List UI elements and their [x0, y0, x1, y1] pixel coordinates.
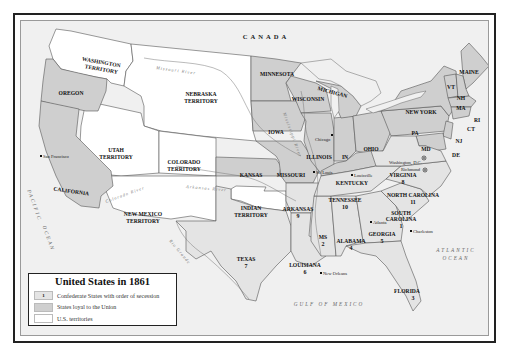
legend-label: U.S. territories	[57, 316, 93, 322]
oregon-label: OREGON	[59, 90, 84, 96]
new-mexico-territory-label-1: NEW MEXICO	[124, 211, 163, 217]
san-francisco-label: San Francisco	[43, 154, 70, 159]
mississippi-order: 2	[322, 241, 325, 247]
canada-label: CANADA	[243, 33, 290, 40]
illinois-label: ILLINOIS	[306, 154, 332, 160]
atlantic-label-2: OCEAN	[442, 255, 469, 261]
south-carolina-order: 1	[400, 223, 403, 229]
legend-title: United States in 1861	[34, 276, 171, 288]
chicago-label: Chicago	[315, 137, 331, 142]
utah-territory-label-2: TERRITORY	[99, 154, 133, 160]
florida-order: 3	[412, 295, 415, 301]
new-york-label: NEW YORK	[405, 109, 437, 115]
indiana-label: IN	[342, 154, 348, 160]
maryland-label: MD	[421, 146, 430, 152]
missouri-label: MISSOURI	[277, 172, 305, 178]
alabama-order: 4	[350, 245, 353, 251]
arkansas-label: ARKANSAS	[283, 206, 314, 212]
iowa-label: IOWA	[268, 129, 284, 135]
utah-territory-label-1: UTAH	[108, 147, 124, 153]
new-jersey-label: NJ	[456, 138, 463, 144]
legend-item-union: States loyal to the Union	[34, 302, 171, 314]
arkansas-order: 9	[297, 213, 300, 219]
indian-territory-label-1: INDIAN	[241, 205, 262, 211]
st-louis-label: St. Louis	[316, 170, 333, 175]
georgia-order: 5	[381, 238, 384, 244]
legend-item-territories: U.S. territories	[34, 313, 171, 325]
south-carolina-label-2: CAROLINA	[386, 216, 416, 222]
legend-label: States loyal to the Union	[57, 304, 116, 310]
kansas-label: KANSAS	[240, 172, 263, 178]
richmond-label: Richmond	[401, 167, 421, 172]
ohio-label: OHIO	[363, 146, 379, 152]
maine-label: MAINE	[459, 69, 479, 75]
nebraska-territory-label-1: NEBRASKA	[185, 91, 216, 97]
mississippi-label: MS	[319, 234, 327, 240]
atlantic-label-1: ATLANTIC	[435, 247, 475, 253]
confederate-swatch: 1	[34, 291, 53, 300]
colorado-territory-label-1: COLORADO	[168, 159, 202, 165]
minnesota-label: MINNESOTA	[260, 71, 294, 77]
gulf-label: GULF OF MEXICO	[294, 301, 365, 307]
new-mexico-territory-label-2: TERRITORY	[126, 218, 160, 224]
louisiana-order: 6	[304, 269, 307, 275]
virginia-order: 8	[402, 179, 405, 185]
virginia-label: VIRGINIA	[389, 172, 416, 178]
city-louisville: Louisville	[351, 173, 373, 178]
vermont-label: VT	[447, 84, 455, 90]
atlanta-label: Atlanta	[373, 220, 387, 225]
city-atlanta: Atlanta	[370, 220, 387, 225]
pennsylvania-label: PA	[411, 130, 418, 136]
georgia-label: GEORGIA	[368, 231, 395, 237]
city-charleston: Charleston	[410, 229, 434, 234]
texas-label: TEXAS	[237, 256, 256, 262]
north-carolina-order: 11	[410, 199, 416, 205]
connecticut-label: CT	[467, 126, 475, 132]
wisconsin-label: WISCONSIN	[292, 96, 325, 102]
new-orleans-label: New Orleans	[323, 271, 347, 276]
delaware-label: DE	[452, 152, 460, 158]
territory-swatch	[34, 314, 53, 323]
louisville-label: Louisville	[354, 173, 373, 178]
legend-label: Confederate States with order of secessi…	[57, 293, 159, 299]
legend-item-confederate: 1 Confederate States with order of seces…	[34, 290, 171, 302]
union-swatch	[34, 303, 53, 312]
charleston-label: Charleston	[413, 229, 434, 234]
city-new-orleans: New Orleans	[320, 271, 347, 276]
texas-order: 7	[245, 263, 248, 269]
map-legend: United States in 1861 1 Confederate Stat…	[28, 273, 177, 326]
colorado-territory-label-2: TERRITORY	[167, 166, 201, 172]
indian-territory-label-2: TERRITORY	[234, 212, 268, 218]
north-carolina-label: NORTH CAROLINA	[387, 192, 439, 198]
new-hampshire-label: NH	[457, 95, 466, 101]
rhode-island-label: RI	[474, 117, 480, 123]
massachusetts-label: MA	[456, 105, 465, 111]
kentucky-label: KENTUCKY	[336, 180, 368, 186]
tennessee-order: 10	[342, 204, 348, 210]
nebraska-territory-label-2: TERRITORY	[184, 98, 218, 104]
tennessee-label: TENNESSEE	[329, 197, 362, 203]
louisiana-label: LOUISIANA	[289, 262, 321, 268]
florida-label: FLORIDA	[394, 288, 420, 294]
alabama-label: ALABAMA	[337, 238, 366, 244]
city-st-louis: St. Louis	[313, 170, 333, 175]
city-san-francisco: San Francisco	[40, 154, 70, 159]
